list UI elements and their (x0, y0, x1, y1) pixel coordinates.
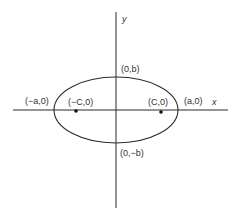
x-axis-label: x (212, 97, 217, 107)
vertex-left-label: (−a,0) (25, 96, 49, 106)
y-axis-label: y (122, 14, 127, 24)
vertex-right-label: (a,0) (184, 96, 203, 106)
ellipse-diagram (0, 0, 239, 220)
focus-right-dot (159, 110, 163, 114)
focus-left-label: (−C,0) (68, 97, 93, 107)
covertex-bottom-label: (0,−b) (120, 148, 144, 158)
focus-left-dot (74, 109, 78, 113)
covertex-top-label: (0,b) (121, 64, 140, 74)
focus-right-label: (C,0) (148, 97, 168, 107)
